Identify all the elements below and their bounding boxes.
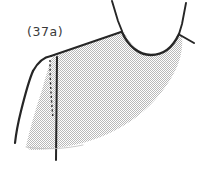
- figure-label: (37a): [27, 24, 63, 39]
- left-shoulder-strap: [112, 1, 122, 31]
- figure-illustration: (37a): [0, 0, 209, 169]
- side-seam: [56, 57, 57, 160]
